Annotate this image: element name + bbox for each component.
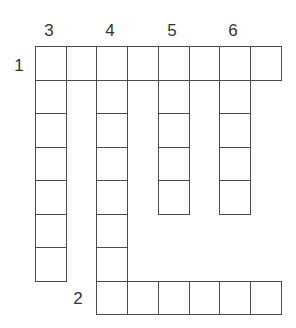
crossword-cell[interactable]	[189, 46, 221, 81]
crossword-cell[interactable]	[158, 113, 190, 148]
crossword-cell[interactable]	[96, 113, 128, 148]
clue-number-3-down: 3	[44, 22, 53, 39]
crossword-cell[interactable]	[35, 80, 67, 115]
crossword-cell[interactable]	[158, 281, 190, 316]
crossword-cell[interactable]	[96, 147, 128, 182]
crossword-cell[interactable]	[250, 281, 282, 316]
crossword-cell[interactable]	[158, 180, 190, 215]
crossword-cell[interactable]	[35, 147, 67, 182]
clue-number-6-down: 6	[228, 22, 237, 39]
crossword-cell[interactable]	[189, 281, 221, 316]
crossword-cell[interactable]	[158, 46, 190, 81]
crossword-cell[interactable]	[66, 46, 98, 81]
crossword-cell[interactable]	[96, 214, 128, 249]
crossword-cell[interactable]	[35, 113, 67, 148]
crossword-cell[interactable]	[127, 46, 159, 81]
crossword-cell[interactable]	[35, 247, 67, 282]
crossword-cell[interactable]	[96, 281, 128, 316]
crossword-cell[interactable]	[96, 46, 128, 81]
crossword-cell[interactable]	[219, 180, 251, 215]
crossword-cell[interactable]	[158, 147, 190, 182]
crossword-cell[interactable]	[96, 180, 128, 215]
crossword-grid: 123456	[0, 0, 296, 328]
crossword-cell[interactable]	[219, 46, 251, 81]
crossword-cell[interactable]	[96, 247, 128, 282]
clue-number-2-across: 2	[73, 290, 82, 307]
clue-number-4-down: 4	[105, 22, 114, 39]
crossword-cell[interactable]	[219, 281, 251, 316]
crossword-cell[interactable]	[35, 46, 67, 81]
crossword-cell[interactable]	[35, 180, 67, 215]
crossword-cell[interactable]	[127, 281, 159, 316]
crossword-cell[interactable]	[250, 46, 282, 81]
clue-number-5-down: 5	[167, 22, 176, 39]
crossword-cell[interactable]	[219, 147, 251, 182]
crossword-cell[interactable]	[96, 80, 128, 115]
clue-number-1-across: 1	[14, 57, 23, 74]
crossword-cell[interactable]	[219, 80, 251, 115]
crossword-cell[interactable]	[158, 80, 190, 115]
crossword-cell[interactable]	[35, 214, 67, 249]
crossword-cell[interactable]	[219, 113, 251, 148]
